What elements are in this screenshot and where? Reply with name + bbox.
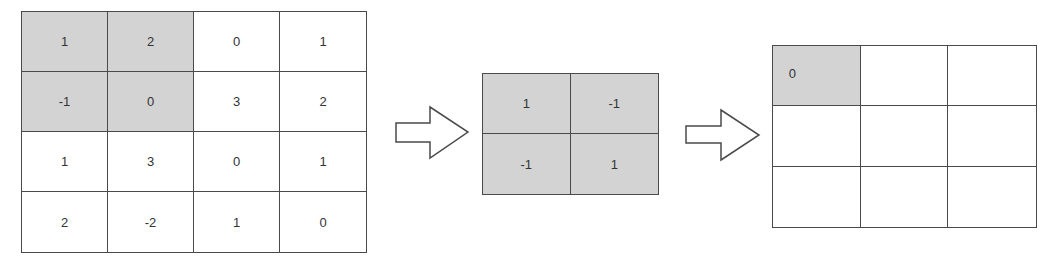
input-cell: 0 xyxy=(194,132,280,192)
input-matrix: 1 2 0 1 -1 0 3 2 1 3 0 1 2 -2 1 0 xyxy=(21,11,367,253)
output-cell xyxy=(948,46,1036,106)
output-cell xyxy=(861,46,949,106)
kernel-cell: -1 xyxy=(571,74,659,134)
output-cell xyxy=(948,167,1036,227)
input-cell: 0 xyxy=(108,72,194,132)
input-cell: 2 xyxy=(108,12,194,72)
output-cell: 0 xyxy=(773,46,861,106)
right-arrow-icon xyxy=(685,109,761,162)
input-cell: 1 xyxy=(280,132,366,192)
input-cell: 1 xyxy=(22,132,108,192)
kernel-cell: 1 xyxy=(483,74,571,134)
input-cell: 1 xyxy=(22,12,108,72)
kernel-cell: 1 xyxy=(571,134,659,194)
right-arrow-icon xyxy=(395,106,470,160)
input-cell: 1 xyxy=(280,12,366,72)
output-cell xyxy=(948,106,1036,166)
input-cell: -2 xyxy=(108,192,194,252)
input-cell: 0 xyxy=(194,12,280,72)
kernel-matrix: 1 -1 -1 1 xyxy=(482,73,659,195)
output-matrix: 0 xyxy=(772,45,1037,228)
input-cell: 1 xyxy=(194,192,280,252)
kernel-cell: -1 xyxy=(483,134,571,194)
input-cell: -1 xyxy=(22,72,108,132)
input-cell: 3 xyxy=(108,132,194,192)
input-cell: 2 xyxy=(22,192,108,252)
output-cell xyxy=(861,106,949,166)
input-cell: 0 xyxy=(280,192,366,252)
output-cell xyxy=(773,106,861,166)
input-cell: 2 xyxy=(280,72,366,132)
output-cell xyxy=(773,167,861,227)
output-cell xyxy=(861,167,949,227)
input-cell: 3 xyxy=(194,72,280,132)
